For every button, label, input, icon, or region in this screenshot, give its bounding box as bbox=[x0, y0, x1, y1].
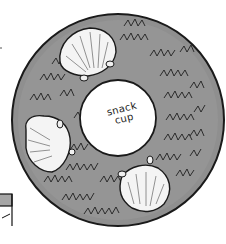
edge-box-fragment bbox=[0, 194, 12, 226]
